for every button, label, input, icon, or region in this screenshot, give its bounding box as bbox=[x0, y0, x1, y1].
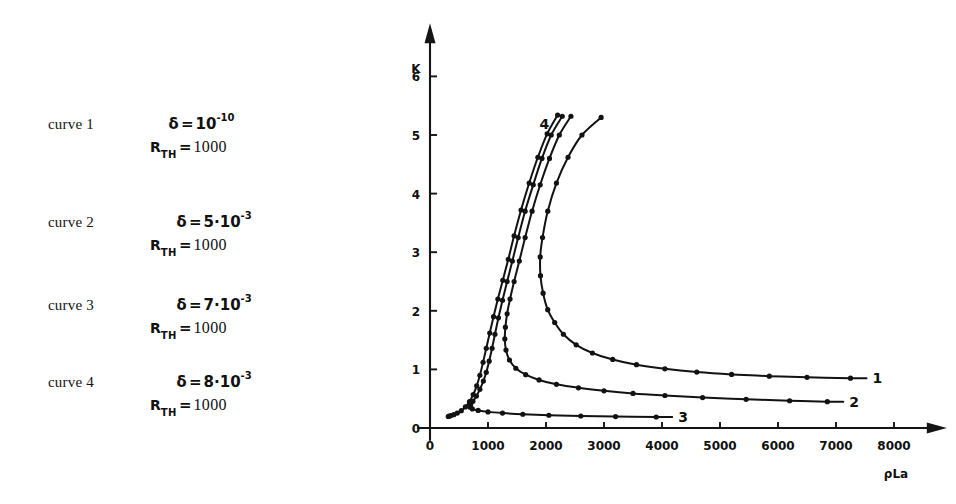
data-point bbox=[476, 408, 481, 413]
equals-sign: = bbox=[187, 373, 204, 391]
r-subscript: TH bbox=[161, 330, 177, 341]
series-1 bbox=[538, 115, 854, 381]
equals-sign: = bbox=[177, 138, 194, 156]
y-axis-arrow-icon bbox=[425, 23, 436, 43]
delta-symbol: δ bbox=[176, 212, 186, 231]
r-value: 1000 bbox=[194, 319, 227, 336]
y-tick-label: 2 bbox=[412, 305, 420, 319]
mantissa: 10 bbox=[196, 115, 217, 133]
series-3 bbox=[467, 114, 658, 420]
curve-1-delta-equation: δ=10-10 bbox=[168, 114, 235, 133]
data-point bbox=[492, 332, 497, 337]
curve-line-1 bbox=[540, 117, 850, 378]
legend-entry-curve-4: curve 4 δ=8·10-3 RTH=1000 bbox=[0, 372, 390, 436]
legend-panel: curve 1 δ=10-10 RTH=1000 curve 2 δ=5·10-… bbox=[0, 0, 390, 504]
y-tick-label: 1 bbox=[412, 363, 420, 377]
y-tick-label: 4 bbox=[412, 188, 420, 202]
data-point bbox=[538, 254, 543, 259]
data-point bbox=[552, 320, 557, 325]
data-point bbox=[502, 336, 507, 341]
x-tick-label: 1000 bbox=[471, 439, 504, 453]
delta-symbol: δ bbox=[168, 114, 178, 133]
data-point bbox=[523, 372, 528, 377]
data-point bbox=[565, 155, 570, 160]
data-point bbox=[700, 395, 705, 400]
data-point bbox=[489, 346, 494, 351]
x-axis-title: ρLa bbox=[884, 467, 908, 481]
r-symbol: R bbox=[150, 397, 161, 413]
data-point bbox=[555, 112, 560, 117]
equals-sign: = bbox=[187, 296, 204, 314]
data-point bbox=[500, 298, 505, 303]
chart-panel: 0100020003000400050006000700080000123456… bbox=[390, 0, 956, 504]
data-point bbox=[599, 115, 604, 120]
data-point bbox=[554, 180, 559, 185]
data-point bbox=[495, 296, 500, 301]
data-point bbox=[561, 332, 566, 337]
data-point bbox=[662, 366, 667, 371]
data-point bbox=[446, 414, 451, 419]
data-point bbox=[507, 296, 512, 301]
curve-end-label-2: 2 bbox=[849, 394, 859, 410]
data-point bbox=[694, 369, 699, 374]
curve-line-3 bbox=[470, 116, 656, 417]
curve-2-delta-equation: δ=5·10-3 bbox=[176, 212, 252, 231]
r-symbol: R bbox=[150, 320, 161, 336]
data-point bbox=[787, 398, 792, 403]
data-point bbox=[505, 311, 510, 316]
exponent: -3 bbox=[241, 293, 252, 304]
curve-line-2 bbox=[505, 116, 827, 401]
data-point bbox=[662, 393, 667, 398]
data-point bbox=[547, 156, 552, 161]
data-point bbox=[507, 357, 512, 362]
data-point bbox=[463, 404, 468, 409]
equals-sign: = bbox=[179, 115, 196, 133]
r-symbol: R bbox=[150, 237, 161, 253]
curve-1-rth-equation: RTH=1000 bbox=[150, 138, 227, 158]
x-tick-label: 0 bbox=[426, 439, 434, 453]
data-point bbox=[505, 279, 510, 284]
data-point bbox=[523, 235, 528, 240]
curve-1-name: curve 1 bbox=[48, 116, 94, 133]
exponent: -3 bbox=[241, 210, 252, 221]
data-point bbox=[470, 406, 475, 411]
r-symbol: R bbox=[150, 139, 161, 155]
data-point bbox=[484, 346, 489, 351]
data-point bbox=[503, 325, 508, 330]
curve-end-label-4: 4 bbox=[540, 116, 550, 132]
curve-4-rth-equation: RTH=1000 bbox=[150, 396, 227, 416]
equals-sign: = bbox=[177, 396, 194, 414]
data-point bbox=[535, 155, 540, 160]
r-subscript: TH bbox=[161, 407, 177, 418]
data-point bbox=[518, 207, 523, 212]
data-point bbox=[546, 413, 551, 418]
curve-label-group-4: 4 bbox=[540, 116, 550, 132]
data-point bbox=[574, 342, 579, 347]
data-point bbox=[538, 273, 543, 278]
x-tick-label: 7000 bbox=[819, 439, 852, 453]
legend-entry-curve-1: curve 1 δ=10-10 RTH=1000 bbox=[0, 114, 390, 178]
data-point bbox=[804, 375, 809, 380]
chart-svg: 0100020003000400050006000700080000123456… bbox=[390, 0, 956, 504]
data-point bbox=[545, 209, 550, 214]
r-value: 1000 bbox=[194, 236, 227, 253]
data-point bbox=[500, 410, 505, 415]
data-point bbox=[541, 291, 546, 296]
data-point bbox=[744, 397, 749, 402]
x-tick-label: 8000 bbox=[877, 439, 910, 453]
equals-sign: = bbox=[177, 319, 194, 337]
data-point bbox=[471, 392, 476, 397]
data-point bbox=[538, 182, 543, 187]
data-point bbox=[634, 362, 639, 367]
curve-3-delta-equation: δ=7·10-3 bbox=[176, 295, 252, 314]
data-point bbox=[536, 377, 541, 382]
data-point bbox=[474, 383, 479, 388]
x-axis-title-text: ρLa bbox=[884, 467, 908, 481]
data-point bbox=[545, 307, 550, 312]
data-point bbox=[512, 233, 517, 238]
exponent: -10 bbox=[216, 112, 234, 123]
data-point bbox=[613, 414, 618, 419]
r-subscript: TH bbox=[161, 247, 177, 258]
x-tick-label: 6000 bbox=[761, 439, 794, 453]
data-point bbox=[484, 370, 489, 375]
